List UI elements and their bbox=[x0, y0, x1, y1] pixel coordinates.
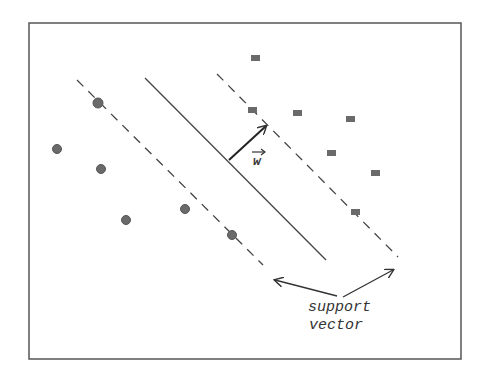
circle-point bbox=[228, 231, 237, 240]
support-label-line2: vector bbox=[309, 317, 363, 334]
square-point bbox=[293, 110, 302, 116]
square-point bbox=[251, 55, 260, 61]
support-label-line1: support bbox=[308, 299, 371, 316]
circle-point bbox=[53, 145, 62, 154]
svm-diagram: w support vector bbox=[0, 0, 488, 383]
square-point bbox=[248, 107, 257, 113]
figure-frame bbox=[29, 23, 461, 359]
square-point bbox=[371, 170, 380, 176]
square-point bbox=[351, 209, 360, 215]
circle-point bbox=[122, 216, 131, 225]
circle-point bbox=[97, 165, 106, 174]
circle-point bbox=[93, 98, 103, 108]
svg-text:w: w bbox=[253, 154, 262, 169]
square-point bbox=[346, 116, 355, 122]
circle-point bbox=[181, 205, 190, 214]
square-point bbox=[327, 150, 336, 156]
